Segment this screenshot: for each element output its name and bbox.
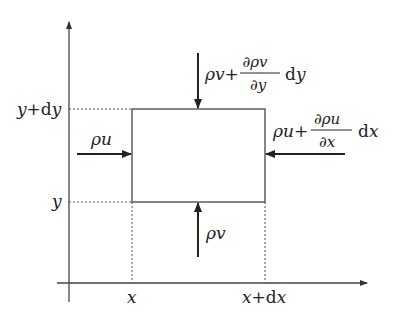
diagram-canvas: y+dy y x x+dx ρu ρv ρv+ ∂ρv ∂y dy ρu+ ∂ρ… bbox=[0, 0, 413, 328]
svg-text:∂ρv: ∂ρv bbox=[242, 53, 268, 71]
flux-bottom-label: ρv bbox=[205, 223, 226, 243]
tick-x-right: x+dx bbox=[242, 287, 287, 307]
svg-text:dy: dy bbox=[285, 64, 306, 84]
flux-top-label: ρv+ ∂ρv ∂y dy bbox=[204, 53, 306, 94]
svg-text:∂x: ∂x bbox=[319, 133, 336, 151]
tick-y-top: y+dy bbox=[16, 99, 62, 119]
svg-text:dx: dx bbox=[358, 121, 379, 141]
tick-x-left: x bbox=[127, 287, 137, 307]
flux-right-label: ρu+ ∂ρu ∂x dx bbox=[272, 110, 379, 151]
flux-left-label: ρu bbox=[90, 129, 112, 149]
svg-text:∂ρu: ∂ρu bbox=[314, 110, 340, 128]
tick-y-bottom: y bbox=[51, 191, 62, 211]
svg-text:ρu+: ρu+ bbox=[272, 121, 308, 141]
svg-text:∂y: ∂y bbox=[250, 76, 267, 94]
control-volume bbox=[132, 109, 265, 202]
svg-text:ρv+: ρv+ bbox=[204, 64, 239, 84]
